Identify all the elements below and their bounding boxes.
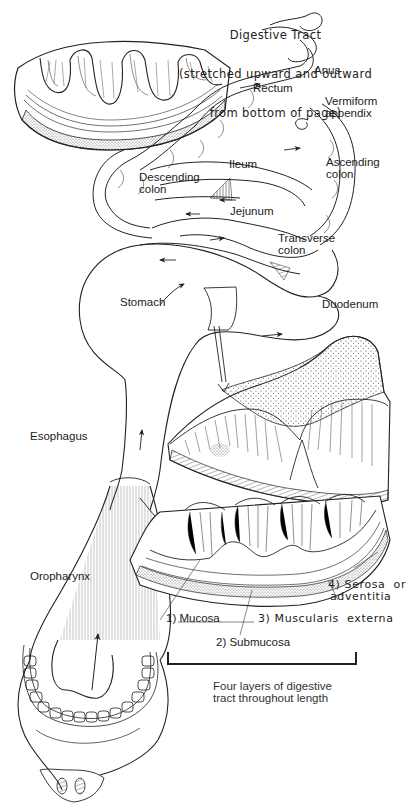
label-vermiform-appendix-2: appendix <box>325 107 372 120</box>
caption-line-2: tract throughout length <box>213 692 328 705</box>
label-muscularis-externa: 3) Muscularis externa <box>258 612 394 625</box>
label-mucosa: 1) Mucosa <box>166 612 220 625</box>
mouth-drawing <box>18 634 168 802</box>
label-submucosa: 2) Submucosa <box>216 636 290 649</box>
title-line-1: Digestive Tract <box>150 29 401 42</box>
stomach-wall-section <box>168 336 390 504</box>
label-ileum: Ileum <box>229 158 257 171</box>
title-line-2: (stretched upward and outward <box>150 68 401 81</box>
label-serosa-2: adventitia <box>330 590 391 603</box>
label-jejunum: Jejunum <box>230 205 273 218</box>
label-ascending-colon-2: colon <box>326 168 354 181</box>
layers-bracket <box>168 652 356 664</box>
label-oropharynx: Oropharynx <box>30 570 90 583</box>
label-duodenum: Duodenum <box>322 298 378 311</box>
label-esophagus: Esophagus <box>30 430 88 443</box>
label-descending-colon-2: colon <box>139 183 167 196</box>
label-stomach: Stomach <box>120 296 165 309</box>
label-rectum: Rectum <box>253 82 293 95</box>
label-anus: Anus <box>314 64 340 77</box>
label-transverse-colon-2: colon <box>278 244 306 257</box>
